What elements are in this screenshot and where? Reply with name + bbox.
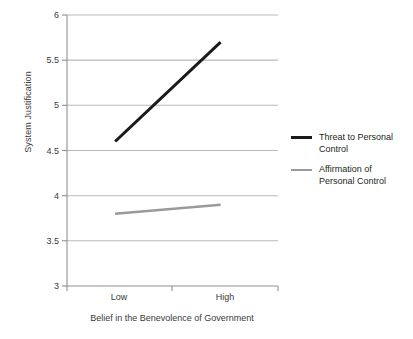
x-tick-label-low: Low bbox=[89, 292, 149, 303]
x-axis-label: Belief in the Benevolence of Government bbox=[42, 313, 302, 324]
legend-swatch-affirmation-line bbox=[291, 169, 312, 171]
series-line-threat-to-personal-control bbox=[115, 42, 221, 141]
y-tick-label-4-5: 4.5 bbox=[33, 146, 59, 156]
chart-figure: System Justification 6 5.5 5 4.5 4 3.5 3… bbox=[0, 0, 413, 339]
legend-label-threat-line-2: Control bbox=[319, 144, 413, 156]
legend-swatch-threat-line bbox=[291, 136, 312, 139]
y-tick-label-3-5: 3.5 bbox=[33, 236, 59, 246]
y-tick-label-4: 4 bbox=[33, 191, 59, 201]
gridlines bbox=[67, 15, 278, 241]
x-axis-ticks bbox=[67, 286, 278, 291]
y-tick-label-3: 3 bbox=[33, 281, 59, 291]
y-tick-label-5-5: 5.5 bbox=[33, 55, 59, 65]
legend-entry-threat-to-personal-control: Threat to Personal Control bbox=[291, 132, 413, 155]
y-axis-ticks bbox=[62, 15, 67, 286]
chart-legend: Threat to Personal Control Affirmation o… bbox=[291, 132, 413, 196]
y-axis-label: System Justification bbox=[23, 32, 33, 192]
y-tick-label-5: 5 bbox=[33, 100, 59, 110]
legend-label-threat-line-1: Threat to Personal bbox=[319, 132, 413, 144]
legend-label-affirmation-line-1: Affirmation of bbox=[319, 164, 413, 176]
series-line-affirmation-of-personal-control bbox=[115, 205, 221, 214]
legend-entry-affirmation-of-personal-control: Affirmation of Personal Control bbox=[291, 164, 413, 187]
legend-label-affirmation-line-2: Personal Control bbox=[319, 176, 413, 188]
x-tick-label-high: High bbox=[195, 292, 255, 303]
y-tick-label-6: 6 bbox=[33, 10, 59, 20]
